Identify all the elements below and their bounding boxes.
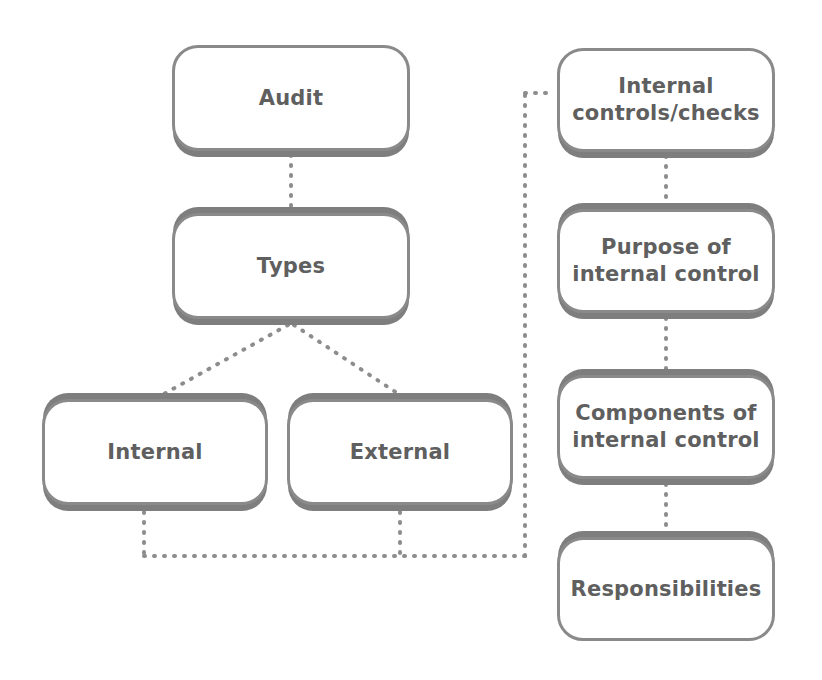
node-types[interactable]: Types — [172, 213, 410, 319]
node-label-internal-controls-checks: Internal controls/checks — [562, 73, 770, 127]
node-label-audit: Audit — [249, 85, 333, 112]
node-label-responsibilities: Responsibilities — [561, 576, 772, 603]
node-components-of-internal-control[interactable]: Components of internal control — [557, 375, 775, 479]
node-external[interactable]: External — [287, 399, 513, 505]
node-label-purpose-of-internal-control: Purpose of internal control — [562, 234, 769, 288]
node-label-internal: Internal — [97, 439, 212, 466]
node-label-components-of-internal-control: Components of internal control — [562, 400, 769, 454]
connector-types-to-external — [294, 325, 400, 395]
node-internal-controls-checks[interactable]: Internal controls/checks — [557, 48, 775, 152]
connector-types-to-internal — [162, 325, 288, 395]
node-responsibilities[interactable]: Responsibilities — [557, 537, 775, 641]
node-audit[interactable]: Audit — [172, 45, 410, 151]
node-internal[interactable]: Internal — [42, 399, 268, 505]
diagram-canvas: Audit Types Internal External Internal c… — [0, 0, 822, 680]
node-label-types: Types — [247, 253, 335, 280]
node-label-external: External — [340, 439, 460, 466]
node-purpose-of-internal-control[interactable]: Purpose of internal control — [557, 209, 775, 313]
